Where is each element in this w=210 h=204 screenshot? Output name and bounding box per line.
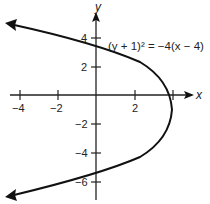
x-axis-label: x [195, 88, 203, 102]
tick-x-2: 2 [132, 102, 138, 114]
equation-label: (y + 1)² = −4(x − 4) [108, 40, 204, 52]
y-axis-label: y [94, 0, 102, 14]
tick-y-neg4: −4 [75, 147, 88, 159]
tick-y-2: 2 [81, 61, 87, 73]
tick-x-neg4: −4 [12, 102, 25, 114]
tick-y-neg2: −2 [75, 118, 88, 130]
parabola-graph: −4 −2 2 4 2 −2 −4 −6 x y (y + 1)² = −4(x… [0, 0, 210, 204]
tick-x-neg2: −2 [50, 102, 63, 114]
